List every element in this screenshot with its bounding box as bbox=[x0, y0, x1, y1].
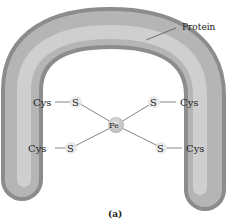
cys-label: Cys bbox=[28, 143, 46, 154]
sulfur-label: S bbox=[67, 143, 74, 154]
figure-caption: (a) bbox=[108, 209, 122, 219]
sulfur-label: S bbox=[72, 97, 79, 108]
cys-label: Cys bbox=[33, 97, 51, 108]
sulfur-label: S bbox=[150, 97, 157, 108]
protein-label: Protein bbox=[182, 22, 216, 32]
cys-label: Cys bbox=[186, 143, 204, 154]
fe-label: Fe bbox=[109, 121, 119, 130]
sulfur-label: S bbox=[157, 143, 164, 154]
iron-sulfur-diagram: Protein Cys S Cys S S Cys S Cys Fe (a) bbox=[0, 0, 236, 223]
protein-tube bbox=[22, 28, 205, 190]
cys-label: Cys bbox=[180, 97, 198, 108]
